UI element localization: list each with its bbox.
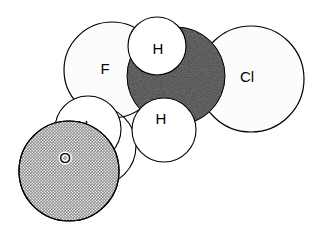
hydrogen-top-label: H	[153, 40, 164, 57]
atom-oxygen: O	[19, 121, 119, 221]
chlorine-label: Cl	[240, 68, 254, 85]
molecule-svg-canvas: F H O Cl H	[0, 0, 319, 227]
atom-hydrogen-top: H	[128, 17, 186, 75]
hydrogen-lower-center-label: H	[156, 110, 167, 127]
hydrogen-lower-center-sphere	[132, 98, 196, 162]
molecule-diagram: F H O Cl H	[0, 0, 319, 227]
fluorine-label: F	[100, 60, 109, 77]
atom-hydrogen-lower-center: H	[132, 98, 196, 162]
oxygen-label: O	[59, 149, 71, 166]
